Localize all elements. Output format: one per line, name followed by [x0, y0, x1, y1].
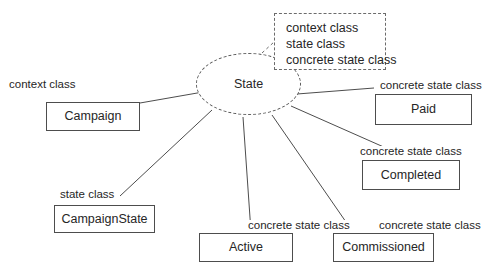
edge-label-campaign: context class [9, 79, 75, 91]
node-completed-label: Completed [381, 169, 441, 182]
node-state-label: State [234, 77, 263, 91]
node-paid[interactable]: Paid [375, 94, 472, 125]
diagram-canvas: context class state class concrete state… [0, 0, 483, 277]
node-commissioned[interactable]: Commissioned [333, 233, 434, 262]
edge-label-paid: concrete state class [380, 80, 482, 92]
node-completed[interactable]: Completed [362, 160, 460, 190]
node-campaign[interactable]: Campaign [46, 102, 140, 131]
node-paid-label: Paid [411, 103, 436, 116]
edge-label-active: concrete state class [248, 220, 350, 232]
node-active[interactable]: Active [199, 233, 293, 262]
edge-state-commissioned [272, 115, 346, 222]
legend-line-state-class: state class [286, 36, 385, 52]
legend-line-concrete-state-class: concrete state class [286, 52, 385, 68]
node-campaign-state[interactable]: CampaignState [54, 205, 155, 233]
legend-line-context-class: context class [286, 20, 385, 36]
edge-label-campaign-state: state class [60, 189, 114, 201]
edge-state-paid [297, 88, 374, 94]
node-campaign-label: Campaign [65, 110, 122, 123]
node-campaign-state-label: CampaignState [61, 213, 147, 226]
node-commissioned-label: Commissioned [342, 241, 425, 254]
stereotype-legend: context class state class concrete state… [274, 13, 386, 70]
edge-state-campaign [140, 92, 203, 103]
node-active-label: Active [229, 241, 263, 254]
edge-label-commissioned: concrete state class [379, 220, 481, 232]
edge-state-legend [262, 42, 274, 53]
edge-label-completed: concrete state class [360, 146, 462, 158]
edge-state-active [243, 117, 251, 232]
